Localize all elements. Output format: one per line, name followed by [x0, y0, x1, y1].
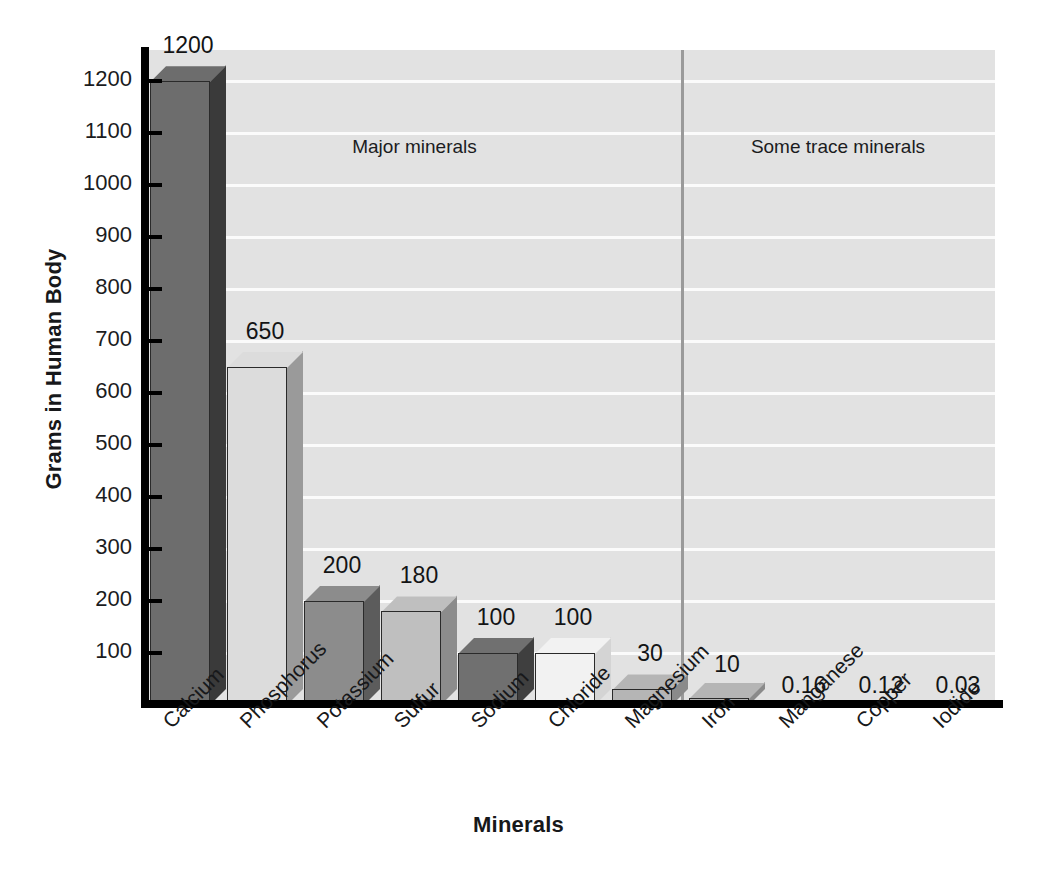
bar-front-face: [227, 367, 287, 705]
y-axis-tick: [149, 443, 162, 447]
bar-group[interactable]: [227, 50, 303, 705]
bar-value-label: 180: [367, 562, 471, 589]
y-axis-tick: [149, 339, 162, 343]
bar-value-label: 1200: [136, 32, 240, 59]
y-axis-tick: [149, 547, 162, 551]
y-axis-tick-label: 900: [42, 222, 132, 248]
y-axis-tick-label: 200: [42, 586, 132, 612]
y-axis-tick: [149, 651, 162, 655]
bar-value-label: 650: [213, 318, 317, 345]
y-axis-tick-label: 700: [42, 326, 132, 352]
bar-group[interactable]: [150, 50, 226, 705]
y-axis-tick-label: 400: [42, 482, 132, 508]
y-axis-tick: [149, 495, 162, 499]
y-axis-tick: [149, 79, 162, 83]
bar-value-label: 100: [521, 604, 625, 631]
y-axis-tick-label: 600: [42, 378, 132, 404]
y-axis-tick: [149, 287, 162, 291]
y-axis-tick-label: 800: [42, 274, 132, 300]
bar-group[interactable]: [689, 50, 765, 705]
y-axis-tick: [149, 235, 162, 239]
y-axis-tick: [149, 391, 162, 395]
y-axis-tick-label: 1000: [42, 170, 132, 196]
x-axis-title: Minerals: [0, 812, 1037, 838]
y-axis-tick: [149, 183, 162, 187]
y-axis-tick-label: 1200: [42, 66, 132, 92]
bar-side-face: [210, 65, 226, 705]
y-axis-tick: [149, 131, 162, 135]
y-axis-tick-label: 500: [42, 430, 132, 456]
y-axis-tick-label: 300: [42, 534, 132, 560]
y-axis-tick-label: 100: [42, 638, 132, 664]
y-axis-tick-label: 1100: [42, 118, 132, 144]
y-axis-title: Grams in Human Body: [41, 219, 67, 519]
y-axis-tick: [149, 599, 162, 603]
y-axis-line: [141, 47, 149, 708]
bar-chart: Grams in Human Body Minerals Major miner…: [0, 0, 1037, 875]
bar-group[interactable]: [304, 50, 380, 705]
